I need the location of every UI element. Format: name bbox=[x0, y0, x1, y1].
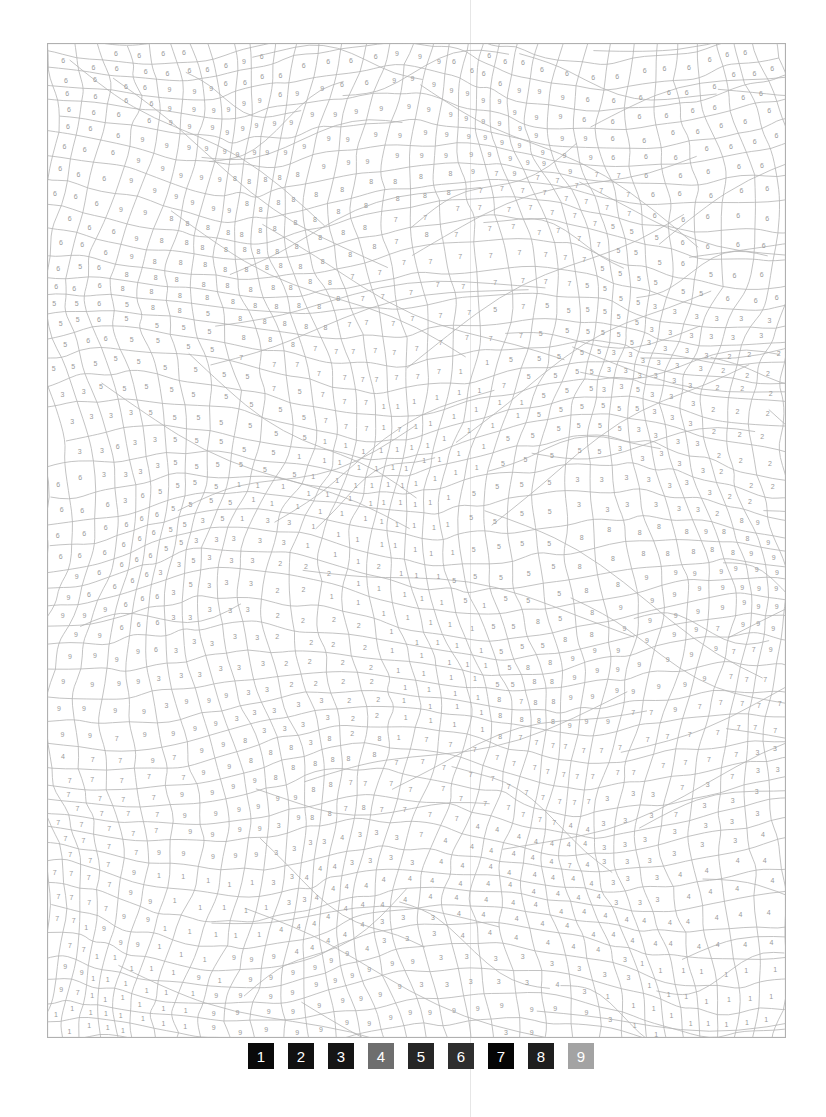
region-number[interactable]: 1 bbox=[54, 1011, 58, 1018]
region-number[interactable]: 4 bbox=[455, 894, 459, 901]
region-number[interactable]: 2 bbox=[376, 696, 380, 703]
region-number[interactable]: 6 bbox=[78, 474, 82, 481]
region-number[interactable]: 3 bbox=[159, 569, 163, 576]
region-number[interactable]: 7 bbox=[416, 373, 420, 380]
region-number[interactable]: 4 bbox=[340, 834, 344, 841]
region-number[interactable]: 4 bbox=[697, 943, 701, 950]
region-number[interactable]: 6 bbox=[706, 243, 710, 250]
region-number[interactable]: 8 bbox=[364, 202, 368, 209]
region-number[interactable]: 9 bbox=[346, 136, 350, 143]
region-number[interactable]: 6 bbox=[88, 125, 92, 132]
region-number[interactable]: 9 bbox=[749, 550, 753, 557]
region-number[interactable]: 7 bbox=[394, 238, 398, 245]
region-number[interactable]: 6 bbox=[56, 532, 60, 539]
region-number[interactable]: 4 bbox=[279, 926, 283, 933]
region-number[interactable]: 8 bbox=[223, 266, 227, 273]
region-number[interactable]: 9 bbox=[411, 958, 415, 965]
region-number[interactable]: 3 bbox=[640, 455, 644, 462]
region-number[interactable]: 3 bbox=[647, 339, 651, 346]
region-number[interactable]: 9 bbox=[113, 707, 117, 714]
region-number[interactable]: 9 bbox=[500, 139, 504, 146]
region-number[interactable]: 9 bbox=[390, 960, 394, 967]
region-number[interactable]: 3 bbox=[255, 634, 259, 641]
region-number[interactable]: 1 bbox=[470, 625, 474, 632]
region-number[interactable]: 7 bbox=[489, 335, 493, 342]
region-number[interactable]: 6 bbox=[705, 145, 709, 152]
region-number[interactable]: 9 bbox=[136, 648, 140, 655]
region-number[interactable]: 4 bbox=[653, 940, 657, 947]
region-number[interactable]: 7 bbox=[72, 917, 76, 924]
region-number[interactable]: 3 bbox=[550, 960, 554, 967]
region-number[interactable]: 5 bbox=[565, 387, 569, 394]
region-number[interactable]: 8 bbox=[274, 774, 278, 781]
region-number[interactable]: 6 bbox=[278, 72, 282, 79]
region-number[interactable]: 5 bbox=[699, 290, 703, 297]
region-number[interactable]: 8 bbox=[313, 216, 317, 223]
region-number[interactable]: 4 bbox=[515, 915, 519, 922]
region-number[interactable]: 9 bbox=[129, 177, 133, 184]
region-number[interactable]: 6 bbox=[92, 109, 96, 116]
region-number[interactable]: 1 bbox=[480, 709, 484, 716]
region-number[interactable]: 9 bbox=[452, 1007, 456, 1014]
region-number[interactable]: 6 bbox=[60, 506, 64, 513]
region-number[interactable]: 9 bbox=[619, 604, 623, 611]
region-number[interactable]: 6 bbox=[591, 74, 595, 81]
region-number[interactable]: 5 bbox=[472, 546, 476, 553]
region-number[interactable]: 3 bbox=[395, 834, 399, 841]
region-number[interactable]: 3 bbox=[90, 413, 94, 420]
region-number[interactable]: 9 bbox=[568, 722, 572, 729]
region-number[interactable]: 5 bbox=[580, 349, 584, 356]
region-number[interactable]: 7 bbox=[646, 736, 650, 743]
region-number[interactable]: 7 bbox=[489, 252, 493, 259]
region-number[interactable]: 9 bbox=[250, 956, 254, 963]
region-number[interactable]: 7 bbox=[563, 254, 567, 261]
region-number[interactable]: 3 bbox=[171, 589, 175, 596]
region-number[interactable]: 1 bbox=[163, 925, 167, 932]
region-number[interactable]: 4 bbox=[486, 880, 490, 887]
region-number[interactable]: 4 bbox=[612, 931, 616, 938]
region-number[interactable]: 3 bbox=[302, 896, 306, 903]
region-number[interactable]: 1 bbox=[344, 442, 348, 449]
region-number[interactable]: 4 bbox=[589, 880, 593, 887]
region-number[interactable]: 9 bbox=[223, 148, 227, 155]
region-number[interactable]: 7 bbox=[707, 756, 711, 763]
region-number[interactable]: 9 bbox=[398, 132, 402, 139]
region-number[interactable]: 9 bbox=[182, 850, 186, 857]
region-number[interactable]: 1 bbox=[370, 482, 374, 489]
region-number[interactable]: 7 bbox=[317, 370, 321, 377]
region-number[interactable]: 4 bbox=[743, 941, 747, 948]
region-number[interactable]: 3 bbox=[576, 476, 580, 483]
region-number[interactable]: 3 bbox=[123, 497, 127, 504]
region-number[interactable]: 7 bbox=[239, 354, 243, 361]
region-number[interactable]: 2 bbox=[375, 712, 379, 719]
region-number[interactable]: 3 bbox=[731, 797, 735, 804]
region-number[interactable]: 3 bbox=[157, 675, 161, 682]
region-number[interactable]: 5 bbox=[219, 438, 223, 445]
region-number[interactable]: 2 bbox=[350, 730, 354, 737]
region-number[interactable]: 6 bbox=[487, 52, 491, 59]
region-number[interactable]: 3 bbox=[420, 981, 424, 988]
region-number[interactable]: 6 bbox=[685, 89, 689, 96]
region-number[interactable]: 9 bbox=[721, 584, 725, 591]
region-number[interactable]: 8 bbox=[331, 756, 335, 763]
region-number[interactable]: 7 bbox=[56, 893, 60, 900]
region-number[interactable]: 8 bbox=[202, 281, 206, 288]
region-number[interactable]: 2 bbox=[341, 659, 345, 666]
region-number[interactable]: 3 bbox=[739, 315, 743, 322]
region-number[interactable]: 7 bbox=[459, 795, 463, 802]
region-number[interactable]: 7 bbox=[551, 742, 555, 749]
region-number[interactable]: 3 bbox=[445, 981, 449, 988]
region-number[interactable]: 6 bbox=[156, 619, 160, 626]
region-number[interactable]: 7 bbox=[120, 777, 124, 784]
region-number[interactable]: 2 bbox=[370, 678, 374, 685]
region-number[interactable]: 9 bbox=[673, 706, 677, 713]
region-number[interactable]: 3 bbox=[696, 506, 700, 513]
region-number[interactable]: 5 bbox=[63, 341, 67, 348]
region-number[interactable]: 6 bbox=[124, 83, 128, 90]
region-number[interactable]: 5 bbox=[303, 434, 307, 441]
region-number[interactable]: 7 bbox=[415, 345, 419, 352]
region-number[interactable]: 9 bbox=[481, 97, 485, 104]
region-number[interactable]: 9 bbox=[542, 160, 546, 167]
region-number[interactable]: 1 bbox=[113, 954, 117, 961]
region-number[interactable]: 6 bbox=[64, 77, 68, 84]
